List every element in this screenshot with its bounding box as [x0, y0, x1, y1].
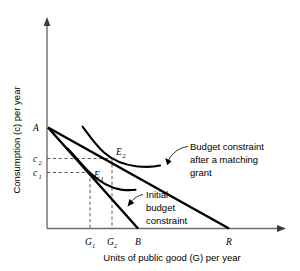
point-label-E2-subscript: 2 [123, 152, 127, 159]
annotation-matching-grant: Budget constraint after a matching grant [190, 141, 264, 178]
y-axis-title: Consumption (c) per year [11, 86, 22, 193]
x-tick-label-G2: G 2 [107, 237, 118, 249]
x-axis-title: Units of public good (G) per year [103, 252, 240, 263]
annotation-matching-grant-line1: Budget constraint [190, 141, 264, 152]
initial-budget-leader-arrowhead [128, 199, 135, 206]
y-tick-label-c2-subscript: 2 [39, 159, 43, 166]
annotation-matching-grant-line2: after a matching [190, 154, 258, 165]
annotation-initial-budget: Initial budget constraint [146, 189, 188, 226]
point-label-E2: E 2 [115, 147, 127, 159]
y-tick-label-c1-subscript: 1 [39, 173, 42, 180]
budget-constraint-figure: A B R E 1 E 2 G 1 G 2 c 2 [0, 0, 300, 271]
y-tick-label-c2: c 2 [33, 154, 43, 166]
annotation-matching-grant-line3: grant [190, 167, 212, 178]
initial-budget-constraint-line [48, 128, 138, 229]
point-label-R: R [225, 237, 232, 247]
annotation-initial-budget-line2: budget [146, 202, 175, 213]
indifference-curves-group [68, 127, 161, 191]
initial-budget-leader-line [131, 195, 144, 203]
point-label-E1-base: E [93, 170, 100, 180]
y-tick-label-c1: c 1 [33, 168, 42, 180]
annotation-initial-budget-line1: Initial [146, 189, 168, 200]
y-tick-label-c1-base: c [33, 168, 38, 178]
y-tick-label-c2-base: c [33, 154, 38, 164]
x-axis-arrowhead [277, 225, 286, 232]
matching-grant-leader-line [169, 147, 189, 161]
point-label-E1-subscript: 1 [101, 175, 104, 182]
guide-lines-group [47, 159, 112, 229]
annotation-initial-budget-line3: constraint [146, 215, 188, 226]
matching-grant-leader-arrowhead [165, 158, 171, 165]
x-tick-label-G1-base: G [85, 237, 92, 247]
point-label-B: B [135, 237, 141, 247]
point-label-E2-base: E [115, 147, 122, 157]
x-tick-label-G2-subscript: 2 [114, 242, 118, 249]
x-tick-label-G1: G 1 [85, 237, 95, 249]
x-tick-label-G2-base: G [107, 237, 114, 247]
point-label-E1: E 1 [93, 170, 104, 182]
y-axis-arrowhead [44, 17, 51, 26]
point-label-A: A [32, 123, 39, 133]
x-tick-label-G1-subscript: 1 [92, 242, 95, 249]
